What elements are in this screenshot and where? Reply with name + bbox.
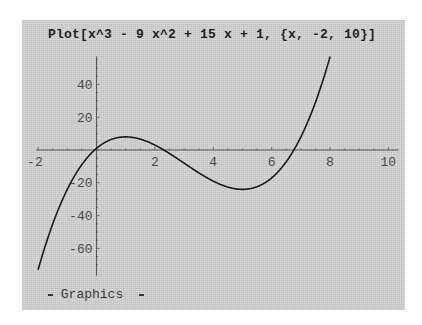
dash-left bbox=[48, 294, 53, 296]
x-tick-label: 6 bbox=[268, 155, 276, 170]
y-tick-label: 40 bbox=[77, 78, 93, 93]
x-tick-label: 4 bbox=[209, 155, 217, 170]
axis-ticks: -22468104020-20-40-60 bbox=[27, 60, 396, 265]
y-tick-label: -40 bbox=[69, 209, 92, 224]
x-tick-label: 8 bbox=[326, 155, 334, 170]
graphics-text: Graphics bbox=[61, 287, 123, 302]
dash-right bbox=[139, 294, 144, 296]
plot-area: -22468104020-20-40-60 bbox=[0, 0, 422, 325]
y-tick-label: 20 bbox=[77, 111, 93, 126]
y-tick-label: -60 bbox=[69, 242, 92, 257]
x-tick-label: -2 bbox=[27, 155, 43, 170]
x-tick-label: 10 bbox=[381, 155, 397, 170]
x-tick-label: 2 bbox=[151, 155, 159, 170]
output-graphics-label: Graphics bbox=[48, 287, 144, 302]
